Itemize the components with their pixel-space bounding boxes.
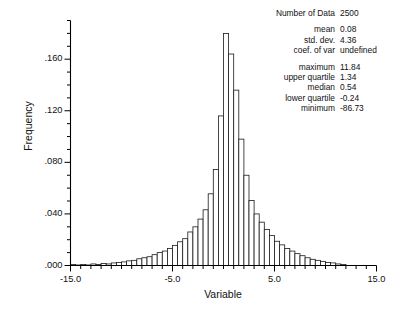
y-tick-label: .120 [29, 105, 63, 115]
histogram-bar [203, 210, 208, 266]
histogram-bar [295, 254, 300, 266]
histogram-bar [142, 258, 147, 266]
x-axis-ticks [71, 266, 377, 272]
histogram-bar [290, 251, 295, 265]
histogram-bar [157, 253, 162, 266]
x-tick-label: -5.0 [150, 274, 196, 284]
histogram-bar [300, 256, 305, 266]
histogram-bars [71, 33, 346, 265]
histogram-bar [127, 261, 132, 266]
histogram-bar [178, 242, 183, 266]
histogram-bar [137, 259, 142, 266]
histogram-bar [234, 90, 239, 265]
y-axis-title: Frequency [22, 66, 34, 186]
x-tick-label: 5.0 [252, 274, 298, 284]
histogram-bar [239, 139, 244, 265]
histogram-bar [152, 255, 157, 266]
histogram-bar [285, 248, 290, 265]
histogram-bar [218, 116, 223, 266]
histogram-bar [259, 222, 264, 265]
histogram-bar [269, 236, 274, 266]
histogram-bar [147, 257, 152, 266]
histogram-bar [183, 239, 188, 266]
y-tick-label: .080 [29, 156, 63, 166]
plot-area: Frequency Variable .000.040.080.120.160-… [0, 0, 410, 313]
y-tick-label: .000 [29, 260, 63, 270]
histogram-bar [173, 245, 178, 265]
histogram-bar [249, 201, 254, 266]
histogram-bar [188, 232, 193, 266]
histogram-bar [132, 260, 137, 265]
histogram-bar [193, 227, 198, 266]
histogram-bar [320, 261, 325, 265]
x-axis-title: Variable [70, 288, 376, 300]
histogram-bar [224, 33, 229, 265]
histogram-bar [244, 175, 249, 265]
histogram-bar [208, 194, 213, 266]
histogram-bar [213, 170, 218, 266]
histogram-bar [198, 219, 203, 265]
histogram-bar [305, 258, 310, 266]
histogram-bar [275, 241, 280, 265]
histogram-bar [310, 259, 315, 265]
histogram-figure: Number of Data2500mean0.08std. dev.4.36c… [0, 0, 410, 313]
histogram-bar [167, 248, 172, 265]
histogram-bar [254, 214, 259, 266]
y-tick-label: .040 [29, 208, 63, 218]
x-tick-label: -15.0 [48, 274, 94, 284]
histogram-bar [264, 229, 269, 265]
histogram-bar [280, 245, 285, 266]
y-tick-label: .160 [29, 53, 63, 63]
histogram-bar [229, 54, 234, 265]
x-tick-label: 15.0 [354, 274, 400, 284]
y-axis-ticks [65, 21, 71, 266]
histogram-bar [162, 251, 167, 265]
histogram-bar [315, 260, 320, 265]
